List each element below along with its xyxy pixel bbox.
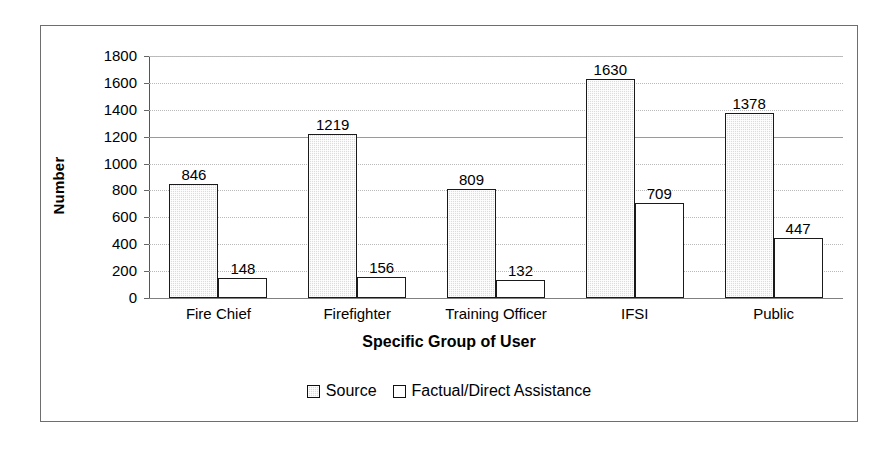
bar-value-label: 132 <box>508 263 533 279</box>
y-tick-mark <box>144 217 149 218</box>
bar-source: 809 <box>447 189 496 298</box>
y-tick-label: 400 <box>77 236 137 251</box>
y-tick-mark <box>144 244 149 245</box>
bar-factual: 148 <box>218 278 267 298</box>
y-tick-label: 800 <box>77 182 137 197</box>
chart-legend: Source Factual/Direct Assistance <box>40 382 858 400</box>
bar-chart-figure: Number 180016001400120010008006004002000… <box>0 0 895 452</box>
legend-item-source: Source <box>307 382 377 400</box>
y-tick-mark <box>144 83 149 84</box>
bar-factual: 156 <box>357 277 406 298</box>
x-category-label: IFSI <box>565 305 704 322</box>
bar-value-label: 809 <box>459 172 484 188</box>
bar-source: 1378 <box>725 113 774 298</box>
bar-group: 1378447 <box>725 56 823 298</box>
y-tick-mark <box>144 56 149 57</box>
legend-swatch-source-icon <box>307 385 320 398</box>
y-axis-title-label: Number <box>50 116 67 256</box>
bar-value-label: 709 <box>647 186 672 202</box>
bar-value-label: 1378 <box>732 96 765 112</box>
bar-value-label: 148 <box>230 261 255 277</box>
y-tick-mark <box>144 137 149 138</box>
y-tick-label: 1800 <box>77 48 137 63</box>
x-category-label: Firefighter <box>288 305 427 322</box>
y-tick-label: 600 <box>77 209 137 224</box>
bar-factual: 709 <box>635 203 684 298</box>
y-tick-label: 1400 <box>77 102 137 117</box>
y-tick-mark <box>144 110 149 111</box>
y-tick-label: 1000 <box>77 156 137 171</box>
y-tick-label: 200 <box>77 263 137 278</box>
y-axis-title: Number <box>47 118 69 258</box>
bar-group: 846148 <box>169 56 267 298</box>
bar-group: 1219156 <box>308 56 406 298</box>
y-tick-label: 1600 <box>77 75 137 90</box>
legend-swatch-factual-icon <box>393 385 406 398</box>
x-axis-line <box>149 298 843 299</box>
bar-value-label: 1219 <box>316 117 349 133</box>
x-axis-title: Specific Group of User <box>40 333 858 351</box>
bar-group: 1630709 <box>586 56 684 298</box>
legend-label-source: Source <box>326 382 377 400</box>
bar-value-label: 846 <box>181 167 206 183</box>
x-category-label: Public <box>704 305 843 322</box>
bar-value-label: 156 <box>369 260 394 276</box>
bar-source: 846 <box>169 184 218 298</box>
legend-label-factual: Factual/Direct Assistance <box>412 382 592 400</box>
bar-source: 1219 <box>308 134 357 298</box>
y-tick-mark <box>144 271 149 272</box>
x-category-label: Training Officer <box>427 305 566 322</box>
legend-item-factual: Factual/Direct Assistance <box>393 382 592 400</box>
plot-area: 180016001400120010008006004002000 846148… <box>149 56 843 298</box>
bar-factual: 447 <box>774 238 823 298</box>
y-tick-label: 1200 <box>77 129 137 144</box>
y-tick-mark <box>144 190 149 191</box>
y-tick-label: 0 <box>77 290 137 305</box>
y-tick-mark <box>144 164 149 165</box>
bar-source: 1630 <box>586 79 635 298</box>
bar-value-label: 1630 <box>594 62 627 78</box>
bar-value-label: 447 <box>786 221 811 237</box>
bar-factual: 132 <box>496 280 545 298</box>
x-category-label: Fire Chief <box>149 305 288 322</box>
bar-group: 809132 <box>447 56 545 298</box>
